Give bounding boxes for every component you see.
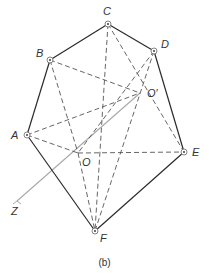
vertex-f-dot-icon (94, 230, 96, 232)
vertex-b-dot-icon (49, 59, 51, 61)
vertex-d-dot-icon (153, 50, 155, 52)
dashed-edge-d-o (78, 51, 154, 153)
vertex-e-dot-icon (183, 151, 185, 153)
dashed-edge-a-o (27, 135, 78, 153)
vertex-labels: ABCDEFOO′Z (10, 5, 200, 244)
hidden-edges (27, 24, 184, 231)
edge-c-d (108, 24, 154, 51)
label-a: A (10, 129, 18, 141)
dashed-edge-a-oprime (27, 93, 140, 135)
label-o: O (82, 156, 91, 168)
label-e: E (192, 146, 200, 158)
edge-b-c (50, 24, 108, 60)
edge-a-b (27, 60, 50, 135)
label-b: B (36, 47, 43, 59)
dashed-edge-b-oprime (50, 60, 140, 93)
vertex-a-dot-icon (26, 134, 28, 136)
label-oprime: O′ (147, 87, 159, 99)
dashed-edge-d-f (95, 51, 154, 231)
z-axis-arrow-icon (13, 201, 21, 204)
vertex-markers (24, 21, 187, 234)
vertex-c-dot-icon (107, 23, 109, 25)
label-f: F (100, 232, 108, 244)
dashed-edge-b-o (50, 60, 78, 153)
label-z: Z (10, 205, 19, 217)
label-d: D (161, 38, 169, 50)
dashed-edge-o-e (78, 152, 184, 153)
dashed-edge-c-e (108, 24, 184, 152)
polyhedron-projection-diagram: ABCDEFOO′Z (b) (0, 0, 209, 276)
label-c: C (103, 5, 111, 17)
edge-d-e (154, 51, 184, 152)
figure-caption: (b) (98, 257, 110, 268)
